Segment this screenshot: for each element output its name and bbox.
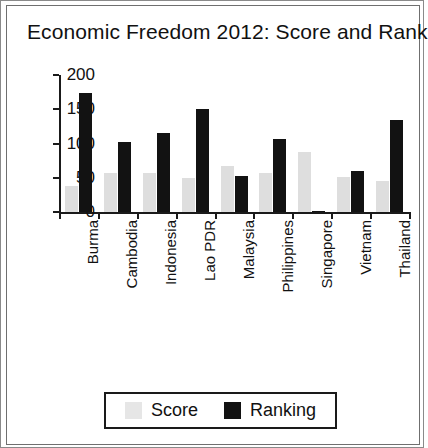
x-tick-6 [292, 212, 294, 219]
x-tick-0 [59, 212, 61, 219]
legend-label-ranking: Ranking [250, 400, 316, 421]
bar-cambodia-score [104, 173, 117, 212]
bar-philippines-score [259, 173, 272, 212]
x-tick-end [409, 212, 411, 219]
x-label-singapore: Singapore [318, 220, 335, 288]
bar-vietnam-score [337, 177, 350, 212]
x-label-malaysia: Malaysia [240, 220, 257, 279]
y-tick-100 [53, 143, 59, 145]
x-label-vietnam: Vietnam [357, 220, 374, 275]
chart-legend: Score Ranking [104, 392, 337, 429]
bar-malaysia-score [221, 166, 234, 212]
legend-item-score: Score [125, 400, 198, 421]
x-label-burma: Burma [84, 220, 101, 264]
x-tick-1 [98, 212, 100, 219]
chart-title: Economic Freedom 2012: Score and Rank [27, 20, 428, 44]
x-tick-3 [176, 212, 178, 219]
bar-indonesia-score [143, 173, 156, 212]
bar-singapore-ranking [312, 211, 325, 212]
ranking-swatch-icon [224, 402, 241, 419]
x-axis-category-labels: BurmaCambodiaIndonesiaLao PDRMalaysiaPhi… [59, 220, 409, 330]
bar-lao-pdr-score [182, 178, 195, 212]
x-tick-7 [331, 212, 333, 219]
y-tick-label-200: 200 [67, 65, 95, 85]
bar-cambodia-ranking [118, 142, 131, 212]
bar-philippines-ranking [273, 139, 286, 212]
x-tick-4 [215, 212, 217, 219]
legend-label-score: Score [151, 400, 198, 421]
bar-indonesia-ranking [157, 133, 170, 212]
x-label-philippines: Philippines [279, 220, 296, 293]
y-tick-50 [53, 177, 59, 179]
bar-thailand-ranking [390, 120, 403, 212]
x-label-lao-pdr: Lao PDR [201, 220, 218, 281]
x-tick-5 [253, 212, 255, 219]
x-label-thailand: Thailand [396, 220, 413, 278]
x-tick-2 [137, 212, 139, 219]
figure-inner-frame: Economic Freedom 2012: Score and Rank 05… [6, 5, 420, 445]
bar-vietnam-ranking [351, 171, 364, 212]
x-label-indonesia: Indonesia [162, 220, 179, 285]
bar-burma-ranking [79, 93, 92, 212]
legend-item-ranking: Ranking [224, 400, 316, 421]
bar-malaysia-ranking [235, 176, 248, 212]
score-swatch-icon [125, 402, 142, 419]
plot-area: 050100150200 [59, 75, 409, 212]
x-tick-8 [370, 212, 372, 219]
bar-singapore-score [298, 152, 311, 212]
x-axis-line [59, 212, 409, 214]
x-label-cambodia: Cambodia [123, 220, 140, 288]
y-tick-150 [53, 108, 59, 110]
bar-burma-score [65, 186, 78, 212]
bar-thailand-score [376, 181, 389, 212]
y-tick-200 [53, 74, 59, 76]
bar-lao-pdr-ranking [196, 109, 209, 212]
